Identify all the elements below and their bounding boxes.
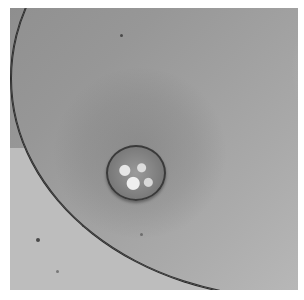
skin-spot: [36, 238, 40, 242]
skin-spot: [140, 233, 143, 236]
lesion: [106, 145, 166, 201]
skin-spot: [56, 270, 59, 273]
clinical-photo: [10, 8, 298, 290]
skin-spot: [120, 34, 123, 37]
